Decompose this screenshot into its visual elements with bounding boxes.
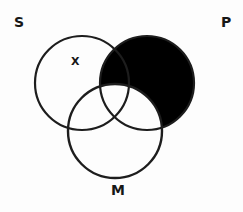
venn-diagram-canvas: S P M X xyxy=(0,0,243,212)
circle-label-s: S xyxy=(14,15,24,29)
circle-label-m: M xyxy=(111,183,125,197)
venn-diagram-svg xyxy=(0,0,243,212)
shaded-fill-rect xyxy=(0,0,243,212)
existential-x-mark: X xyxy=(71,56,79,67)
circle-label-p: P xyxy=(221,15,231,29)
shaded-region-p-not-m xyxy=(0,0,243,212)
